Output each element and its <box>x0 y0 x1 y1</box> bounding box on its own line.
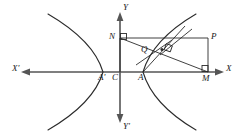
geometry-figure: X' X Y Y' A' C A N P M Q <box>0 0 236 136</box>
axes-group <box>21 12 224 123</box>
axis-label-y-prime: Y' <box>123 122 130 131</box>
point-label-a: A <box>138 73 144 82</box>
y-axis-top-arrowhead <box>117 12 124 21</box>
point-label-m: M <box>202 74 210 83</box>
x-axis-left-arrowhead <box>21 68 30 75</box>
point-markers-group <box>161 48 164 51</box>
point-label-a-prime: A' <box>98 73 105 82</box>
point-label-n: N <box>109 32 115 41</box>
axis-label-x-prime: X' <box>12 64 19 73</box>
tangent-line-upper-extension <box>160 29 192 55</box>
point-dot-tangency <box>161 48 164 51</box>
x-axis-right-arrowhead <box>215 68 224 75</box>
right-angle-markers-group <box>121 34 209 72</box>
point-label-q: Q <box>141 45 148 54</box>
point-label-p: P <box>211 32 217 41</box>
axis-label-y: Y <box>123 3 128 12</box>
point-label-c: C <box>112 73 118 82</box>
construction-lines-group <box>120 26 208 72</box>
segment-n-to-m <box>120 38 208 72</box>
axis-label-x: X <box>226 64 232 73</box>
hyperbola-diagram-canvas <box>0 0 236 136</box>
